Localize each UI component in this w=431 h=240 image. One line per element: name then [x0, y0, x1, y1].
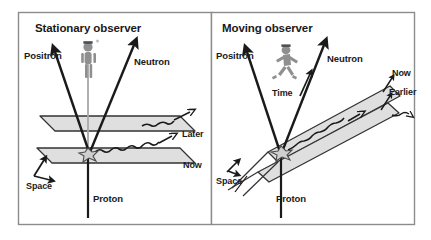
earlier-plane-label: Earlier [389, 87, 416, 97]
left-neutron-label: Neutron [134, 56, 170, 67]
left-positron-label: Positron [24, 50, 62, 61]
figure-root: Stationary observer Positron Neutron Pro… [0, 0, 431, 240]
right-positron-label: Positron [216, 50, 254, 61]
right-time-label: Time [272, 88, 292, 98]
left-panel-title: Stationary observer [35, 22, 141, 34]
left-proton-label: Proton [93, 193, 123, 204]
right-proton-label: Proton [276, 193, 306, 204]
right-space-label: Space [216, 176, 242, 186]
now-plane-label-right: Now [392, 68, 411, 78]
later-plane-label: Later [182, 129, 204, 139]
right-panel-title: Moving observer [222, 22, 313, 34]
now-plane-label-left: Now [183, 160, 202, 170]
now-plane-shape [37, 148, 195, 163]
left-space-label: Space [26, 181, 52, 191]
right-neutron-label: Neutron [327, 53, 363, 64]
spacetime-diagram-svg [0, 0, 431, 240]
